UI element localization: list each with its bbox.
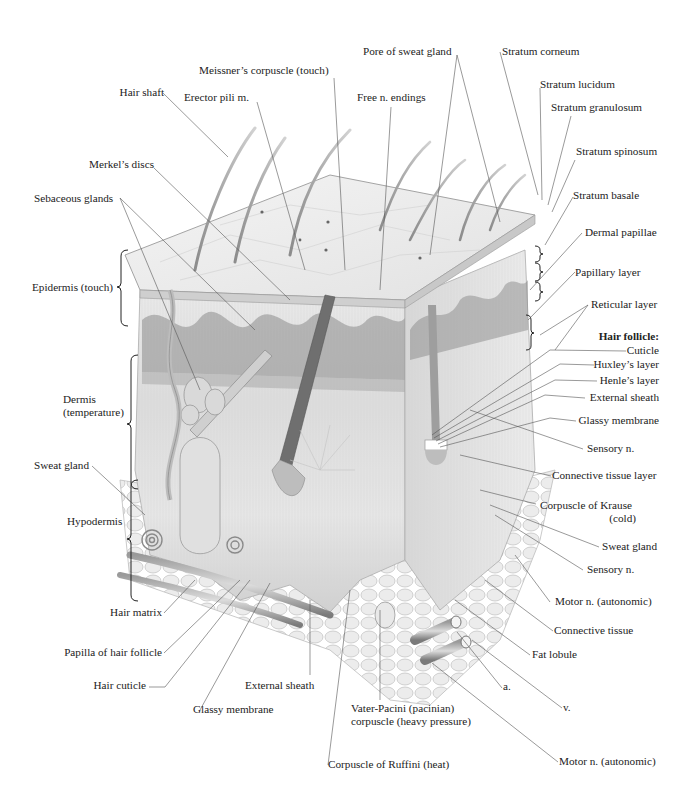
label-vater-pacini: Vater-Pacini (pacinian) <box>351 702 454 715</box>
label-vater-pacini-heavy-pressure: corpuscle (heavy pressure) <box>351 715 471 728</box>
label-huxleys-layer: Huxley’s layer <box>560 358 659 371</box>
label-erector-pili: Erector pili m. <box>184 91 249 104</box>
label-hair-cuticle: Hair cuticle <box>60 679 146 692</box>
label-fat-lobule: Fat lobule <box>532 648 577 661</box>
label-meissners-corpuscle: Meissner’s corpuscle (touch) <box>199 64 329 77</box>
label-dermal-papillae: Dermal papillae <box>585 226 657 239</box>
label-external-sheath-bottom: External sheath <box>245 679 314 692</box>
label-epidermis: Epidermis (touch) <box>32 281 113 294</box>
label-henles-layer: Henle’s layer <box>560 374 659 387</box>
label-krause-cold: (cold) <box>540 512 636 525</box>
label-pore-of-sweat-gland: Pore of sweat gland <box>363 45 452 58</box>
label-external-sheath-right: External sheath <box>560 391 659 404</box>
label-sebaceous-glands: Sebaceous glands <box>34 192 113 205</box>
label-glassy-membrane-bottom: Glassy membrane <box>193 703 273 716</box>
label-sensory-nerve-1: Sensory n. <box>587 442 634 455</box>
label-papillary-layer: Papillary layer <box>575 266 641 279</box>
label-free-nerve-endings: Free n. endings <box>357 91 426 104</box>
label-corpuscle-of-krause: Corpuscle of Krause <box>540 499 632 512</box>
label-stratum-granulosum: Stratum granulosum <box>551 101 642 114</box>
label-motor-nerve-1: Motor n. (autonomic) <box>555 595 652 608</box>
label-artery: a. <box>503 680 511 693</box>
label-hair-matrix: Hair matrix <box>60 606 162 619</box>
label-dermis: Dermis <box>63 393 96 406</box>
label-hypodermis: Hypodermis <box>67 515 122 528</box>
label-stratum-spinosum: Stratum spinosum <box>576 145 657 158</box>
label-connective-tissue: Connective tissue <box>554 624 633 637</box>
label-reticular-layer: Reticular layer <box>591 298 657 311</box>
label-hair-follicle-heading: Hair follicle: <box>560 330 659 343</box>
label-cuticle: Cuticle <box>560 344 659 357</box>
label-papilla-of-hair-follicle: Papilla of hair follicle <box>20 646 162 659</box>
label-sweat-gland-left: Sweat gland <box>34 459 89 472</box>
label-glassy-membrane-right: Glassy membrane <box>560 414 659 427</box>
label-dermis-temperature: (temperature) <box>63 406 124 419</box>
label-connective-tissue-layer: Connective tissue layer <box>552 469 656 482</box>
label-stratum-corneum: Stratum corneum <box>502 45 579 58</box>
label-corpuscle-of-ruffini: Corpuscle of Ruffini (heat) <box>328 758 449 771</box>
label-motor-nerve-2: Motor n. (autonomic) <box>559 755 656 768</box>
label-vein: v. <box>563 701 571 714</box>
label-merkels-discs: Merkel’s discs <box>40 158 154 171</box>
label-hair-shaft: Hair shaft <box>60 86 164 99</box>
label-sensory-nerve-2: Sensory n. <box>587 563 634 576</box>
label-sweat-gland-right: Sweat gland <box>602 540 657 553</box>
label-stratum-basale: Stratum basale <box>573 189 639 202</box>
label-stratum-lucidum: Stratum lucidum <box>540 78 615 91</box>
